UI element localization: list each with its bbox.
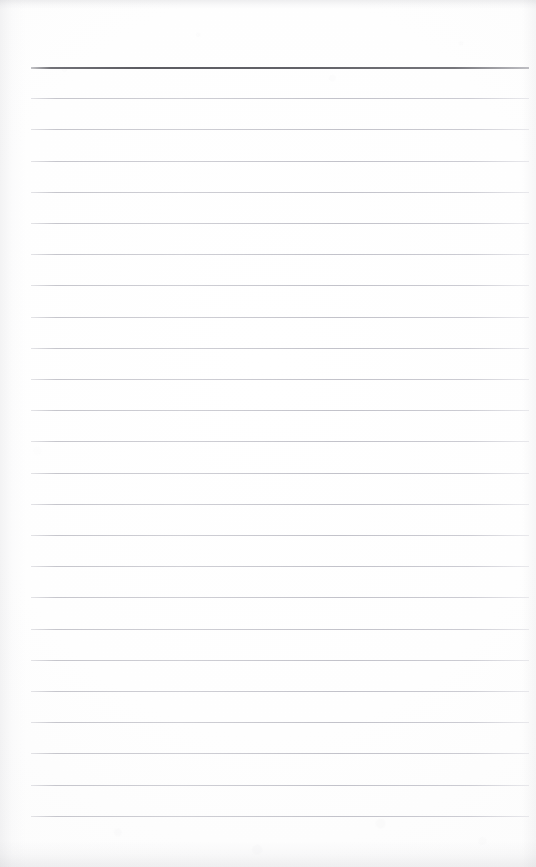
rule-line — [31, 722, 529, 723]
rule-line — [31, 473, 529, 474]
rule-line — [31, 535, 529, 536]
ruled-lines-layer — [0, 0, 536, 867]
rule-line — [31, 816, 529, 817]
rule-line — [31, 691, 529, 692]
header-rule-line — [31, 67, 529, 69]
rule-line — [31, 629, 529, 630]
scanned-page — [0, 0, 536, 867]
rule-line — [31, 161, 529, 162]
rule-line — [31, 129, 529, 130]
rule-line — [31, 660, 529, 661]
rule-line — [31, 379, 529, 380]
rule-line — [31, 223, 529, 224]
rule-line — [31, 566, 529, 567]
rule-line — [31, 410, 529, 411]
rule-line — [31, 785, 529, 786]
rule-line — [31, 317, 529, 318]
rule-line — [31, 192, 529, 193]
rule-line — [31, 98, 529, 99]
rule-line — [31, 254, 529, 255]
rule-line — [31, 597, 529, 598]
rule-line — [31, 441, 529, 442]
rule-line — [31, 285, 529, 286]
rule-line — [31, 348, 529, 349]
rule-line — [31, 504, 529, 505]
rule-line — [31, 753, 529, 754]
